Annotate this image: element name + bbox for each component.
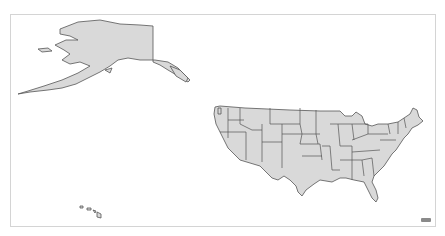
contiguous-us[interactable] [214,106,423,202]
state-alaska[interactable] [18,20,190,94]
state-hawaii[interactable] [80,206,101,218]
map-logo-icon [421,218,431,222]
us-map[interactable] [0,0,445,236]
